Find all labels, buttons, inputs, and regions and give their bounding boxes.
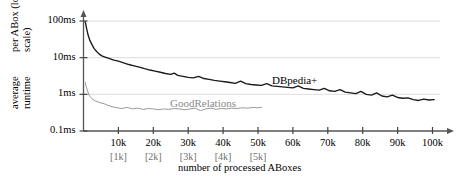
- y-tick-label: 100ms: [34, 14, 76, 25]
- y-tick-label: 10ms: [34, 51, 76, 62]
- x-axis-title: number of processed ABoxes: [178, 162, 301, 173]
- series-label-goodrelations: GoodRelations: [170, 97, 236, 109]
- y-tick-label: 1ms: [34, 87, 76, 98]
- y-axis-title-line1: average runtime: [9, 54, 33, 109]
- y-tick-label: 0.1ms: [34, 124, 76, 135]
- gridlines-group: [84, 21, 441, 94]
- axis-ticks-group: [80, 21, 433, 134]
- x-tick-sub-label: [5k]: [238, 151, 278, 162]
- axis-lines-group: [81, 10, 455, 134]
- x-tick-label: 100k: [413, 137, 453, 148]
- series-label-dbpedia: DBpedia+: [272, 74, 317, 86]
- chart-figure: average runtime per ABox (log. scale) nu…: [0, 0, 468, 181]
- y-axis-title-line2: per ABox (log. scale): [9, 0, 33, 52]
- series-paths-group: [85, 22, 434, 111]
